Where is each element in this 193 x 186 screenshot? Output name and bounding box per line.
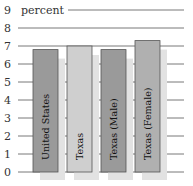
y-tick-label: 4 bbox=[4, 94, 11, 107]
bar-chart: 0123456789percentUnited StatesTexasTexas… bbox=[0, 0, 193, 186]
y-tick-label: 1 bbox=[4, 148, 11, 161]
y-tick-label: 6 bbox=[4, 58, 11, 71]
category-label: Texas (Male) bbox=[108, 98, 119, 160]
category-label: Texas (Female) bbox=[142, 87, 153, 160]
y-axis-label: percent bbox=[21, 4, 65, 17]
y-tick-label: 9 bbox=[4, 4, 11, 17]
y-tick-label: 0 bbox=[4, 166, 11, 179]
y-tick-label: 2 bbox=[4, 130, 11, 143]
category-label: Texas bbox=[74, 133, 85, 160]
category-label: United States bbox=[40, 94, 51, 160]
y-tick-label: 7 bbox=[4, 40, 11, 53]
y-tick-label: 5 bbox=[4, 76, 11, 89]
y-tick-label: 8 bbox=[4, 22, 11, 35]
y-tick-label: 3 bbox=[4, 112, 11, 125]
